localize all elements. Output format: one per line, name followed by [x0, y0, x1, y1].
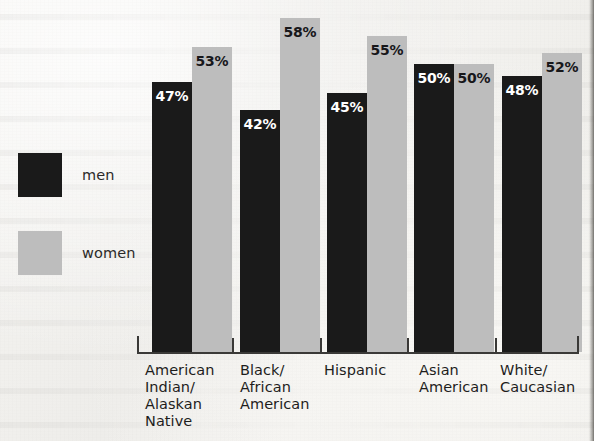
- bar-men-hispanic: 45%: [327, 93, 367, 352]
- bar-men-black-african-american: 42%: [240, 110, 280, 352]
- category-label-line: Indian/: [145, 379, 231, 396]
- category-label-line: Alaskan: [145, 396, 231, 413]
- axis-tick-4: [495, 338, 497, 354]
- bar-women-american-indian: 53%: [192, 47, 232, 352]
- plot-area: 47% 53% 42% 58% 45% 55% 50% 50% 48%: [0, 0, 594, 441]
- category-label-line: American: [240, 396, 320, 413]
- bar-men-asian-american: 50%: [414, 64, 454, 352]
- bar-value-label: 55%: [367, 43, 407, 57]
- bar-chart-figure: men women 47% 53% 42% 58% 45% 55%: [0, 0, 594, 441]
- category-label-line: American: [419, 379, 499, 396]
- axis-endcap-right: [577, 336, 579, 354]
- bar-value-label: 58%: [280, 25, 320, 39]
- axis-tick-1: [232, 338, 234, 354]
- bar-women-asian-american: 50%: [454, 64, 494, 352]
- bar-value-label: 53%: [192, 54, 232, 68]
- category-label-american-indian: American Indian/ Alaskan Native: [145, 362, 231, 430]
- category-label-line: Asian: [419, 362, 499, 379]
- bar-value-label: 45%: [327, 100, 367, 114]
- category-label-white-caucasian: White/ Caucasian: [500, 362, 584, 396]
- bar-value-label: 50%: [414, 71, 454, 85]
- bar-value-label: 42%: [240, 117, 280, 131]
- axis-tick-3: [407, 338, 409, 354]
- bar-value-label: 47%: [152, 89, 192, 103]
- category-label-line: White/: [500, 362, 584, 379]
- axis-endcap-left: [137, 336, 139, 354]
- bar-value-label: 48%: [502, 83, 542, 97]
- category-label-line: Native: [145, 413, 231, 430]
- category-label-asian-american: Asian American: [419, 362, 499, 396]
- category-label-black-african-american: Black/ African American: [240, 362, 320, 413]
- category-label-hispanic: Hispanic: [324, 362, 406, 379]
- category-label-line: Black/: [240, 362, 320, 379]
- category-label-line: Hispanic: [324, 362, 406, 379]
- bar-value-label: 50%: [454, 71, 494, 85]
- category-axis-line: [137, 352, 578, 354]
- bar-women-black-african-american: 58%: [280, 18, 320, 352]
- axis-tick-2: [320, 338, 322, 354]
- bar-men-white-caucasian: 48%: [502, 76, 542, 352]
- bar-men-american-indian: 47%: [152, 82, 192, 352]
- category-label-line: Caucasian: [500, 379, 584, 396]
- bar-women-hispanic: 55%: [367, 36, 407, 352]
- category-label-line: African: [240, 379, 320, 396]
- bar-value-label: 52%: [542, 60, 582, 74]
- bar-women-white-caucasian: 52%: [542, 53, 582, 352]
- category-label-line: American: [145, 362, 231, 379]
